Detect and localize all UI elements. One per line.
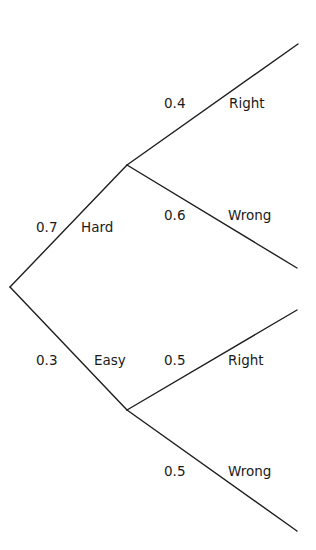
branch-easy xyxy=(10,287,127,410)
easy-probability-label: 0.3 xyxy=(36,352,57,368)
hard-probability-label: 0.7 xyxy=(36,219,57,235)
easy-right-outcome-label: Right xyxy=(228,352,264,368)
branch-hard-right xyxy=(127,44,298,165)
probability-tree-diagram: 0.7 Hard 0.3 Easy 0.4 Right 0.6 Wrong 0.… xyxy=(0,0,316,550)
hard-right-outcome-label: Right xyxy=(229,95,265,111)
hard-right-probability-label: 0.4 xyxy=(164,95,185,111)
easy-subtree-branches xyxy=(127,310,297,531)
easy-wrong-probability-label: 0.5 xyxy=(164,463,185,479)
branch-hard-wrong xyxy=(127,165,297,268)
hard-wrong-outcome-label: Wrong xyxy=(228,207,271,223)
hard-subtree-branches xyxy=(127,44,298,268)
hard-outcome-label: Hard xyxy=(81,219,113,235)
branch-easy-wrong xyxy=(127,410,297,531)
hard-wrong-probability-label: 0.6 xyxy=(164,207,185,223)
stage-1-branches xyxy=(10,165,127,410)
easy-outcome-label: Easy xyxy=(94,352,126,368)
branch-easy-right xyxy=(127,310,297,410)
easy-wrong-outcome-label: Wrong xyxy=(228,463,271,479)
easy-right-probability-label: 0.5 xyxy=(164,352,185,368)
